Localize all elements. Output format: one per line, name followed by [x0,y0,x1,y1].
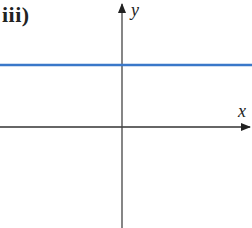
part-label: iii) [2,2,30,28]
graph [0,0,252,228]
y-axis-label: y [131,0,139,21]
x-axis-label: x [238,101,246,122]
